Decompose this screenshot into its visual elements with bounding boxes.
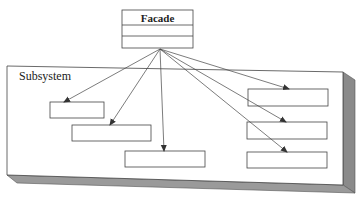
facade-class: Facade: [122, 10, 193, 48]
subsystem-class-box: [72, 125, 151, 141]
facade-diagram: Subsystem Facade: [0, 0, 362, 198]
subsystem-class-box: [247, 122, 327, 139]
subsystem-label: Subsystem: [19, 69, 72, 83]
subsystem-class-box: [248, 89, 328, 106]
subsystem-class-box: [50, 102, 104, 118]
subsystem-class-box: [125, 151, 205, 167]
facade-label: Facade: [141, 12, 175, 24]
subsystem-panel-side: [343, 72, 355, 193]
subsystem-class-box: [247, 152, 327, 168]
